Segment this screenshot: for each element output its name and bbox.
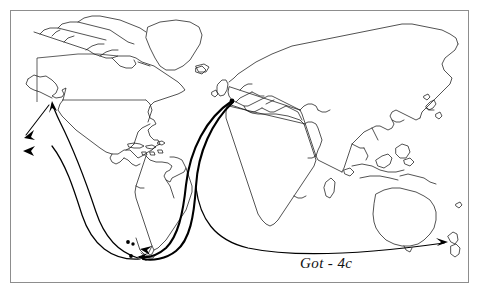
landmass-north-america <box>26 16 185 166</box>
figure-root: Got - 4c <box>0 0 483 295</box>
stop-south-america-a <box>126 240 130 244</box>
landmass-europe-asia <box>228 24 458 172</box>
landmass-australia <box>373 188 436 252</box>
route-arrowheads <box>23 101 448 261</box>
route-lines <box>26 101 444 260</box>
arrow-pacific-west-2 <box>23 146 35 156</box>
route-africa-new-zealand <box>196 188 444 254</box>
arrow-new-zealand <box>436 238 448 246</box>
world-map-svg <box>0 0 483 295</box>
stop-south-america-b <box>131 242 134 245</box>
landmass-indonesia <box>344 144 436 184</box>
stop-south-america-c <box>129 254 133 258</box>
landmass-africa <box>226 104 322 226</box>
origin-europe <box>230 99 235 104</box>
landmass-new-zealand <box>448 202 462 257</box>
route-south-america-north-pacific <box>52 104 138 258</box>
route-europe-south-america-2 <box>143 102 233 260</box>
route-north-pacific-west <box>26 105 49 135</box>
landmass-japan <box>424 94 442 119</box>
stop-south-america-d <box>143 256 146 259</box>
figure-caption: Got - 4c <box>300 255 352 272</box>
landmass-british-isles <box>212 80 228 97</box>
landmass-madagascar <box>324 178 335 198</box>
landmass-iceland <box>196 64 209 72</box>
